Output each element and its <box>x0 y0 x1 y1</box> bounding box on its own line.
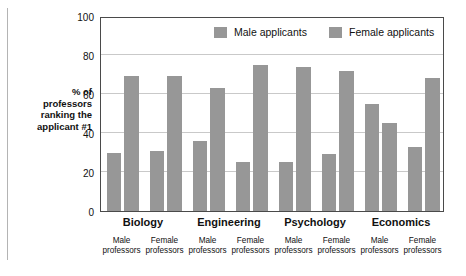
legend-label: Male applicants <box>234 26 307 38</box>
legend-item-0: Male applicants <box>214 26 307 38</box>
page-edge-rule <box>7 8 8 260</box>
bar <box>339 71 354 211</box>
legend-label: Female applicants <box>349 26 434 38</box>
bar <box>425 78 440 211</box>
bar <box>253 65 268 211</box>
bar <box>124 76 139 211</box>
subgroup-label-line: professors <box>272 246 315 256</box>
subgroup-label-line: Male <box>272 236 315 246</box>
bar <box>382 123 397 211</box>
y-tick-40: 40 <box>83 129 94 140</box>
subgroup-label-5: Femaleprofessors <box>315 236 358 264</box>
bars-layer <box>101 18 443 211</box>
subgroup-label-0: Maleprofessors <box>100 236 143 264</box>
subgroup-label-line: Female <box>315 236 358 246</box>
subgroup-label-line: Male <box>186 236 229 246</box>
subgroup-label-line: professors <box>358 246 401 256</box>
bar <box>193 141 208 211</box>
bar <box>150 151 165 211</box>
bar <box>107 153 122 212</box>
subgroup-label-4: Maleprofessors <box>272 236 315 264</box>
bar <box>296 67 311 211</box>
subgroup-label-line: Female <box>143 236 186 246</box>
group-axis-labels: BiologyEngineeringPsychologyEconomics <box>100 216 444 232</box>
subgroup-label-line: professors <box>100 246 143 256</box>
subgroup-label-2: Maleprofessors <box>186 236 229 264</box>
subgroup-label-1: Femaleprofessors <box>143 236 186 264</box>
subgroup-label-line: professors <box>143 246 186 256</box>
group-label-biology: Biology <box>100 216 186 232</box>
y-tick-100: 100 <box>77 12 94 23</box>
subgroup-label-line: Female <box>401 236 444 246</box>
subgroup-label-3: Femaleprofessors <box>229 236 272 264</box>
legend-swatch-icon <box>329 27 342 38</box>
bar <box>279 162 294 211</box>
subgroup-label-line: professors <box>315 246 358 256</box>
legend-item-1: Female applicants <box>329 26 434 38</box>
bar <box>365 104 380 211</box>
bar <box>236 162 251 211</box>
subgroup-label-6: Maleprofessors <box>358 236 401 264</box>
subgroup-label-line: Male <box>100 236 143 246</box>
y-axis-tick-labels: 020406080100 <box>72 12 98 220</box>
subgroup-label-line: Male <box>358 236 401 246</box>
subgroup-label-line: professors <box>229 246 272 256</box>
plot-area <box>100 17 444 212</box>
y-tick-0: 0 <box>88 207 94 218</box>
bar <box>167 76 182 211</box>
y-tick-20: 20 <box>83 168 94 179</box>
subgroup-label-7: Femaleprofessors <box>401 236 444 264</box>
subgroup-label-line: professors <box>186 246 229 256</box>
bar <box>210 88 225 211</box>
group-label-engineering: Engineering <box>186 216 272 232</box>
chart-legend: Male applicantsFemale applicants <box>214 26 434 38</box>
group-label-economics: Economics <box>358 216 444 232</box>
group-label-psychology: Psychology <box>272 216 358 232</box>
bar <box>408 147 423 211</box>
subgroup-label-line: professors <box>401 246 444 256</box>
subgroup-label-line: Female <box>229 236 272 246</box>
subgroup-axis-labels: MaleprofessorsFemaleprofessorsMaleprofes… <box>100 236 444 264</box>
bar <box>322 154 337 211</box>
y-tick-60: 60 <box>83 90 94 101</box>
legend-swatch-icon <box>214 27 227 38</box>
y-tick-80: 80 <box>83 51 94 62</box>
